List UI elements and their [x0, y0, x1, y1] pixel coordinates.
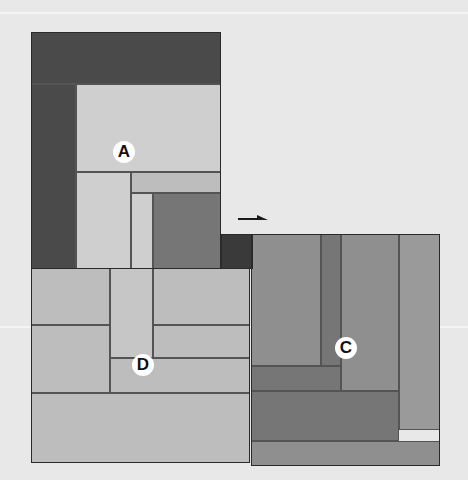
direction-arrow: [238, 214, 268, 224]
group-label-c: C: [335, 337, 357, 359]
arrow-shaft: [238, 218, 260, 220]
arrow-head: [257, 215, 268, 220]
scanline-top: [0, 12, 468, 14]
diagram-canvas: ACD: [0, 0, 468, 480]
group-label-d: D: [132, 354, 154, 376]
group-b-outline[interactable]: [221, 234, 253, 269]
group-label-a: A: [113, 141, 135, 163]
